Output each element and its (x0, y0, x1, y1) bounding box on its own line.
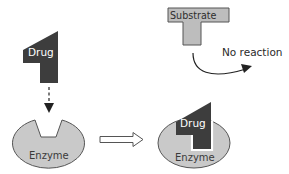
right-drug-label: Drug (180, 117, 206, 129)
left-enzyme-label: Enzyme (29, 150, 69, 161)
no-reaction-label: No reaction (222, 46, 282, 58)
left-drug-label: Drug (28, 46, 54, 58)
drug-enzyme-diagram: Drug Enzyme Substrate No reaction Enzyme… (0, 0, 289, 174)
arrowhead-down-icon (44, 103, 54, 113)
arrowhead-icon (241, 64, 252, 73)
substrate-label: Substrate (170, 10, 217, 21)
right-enzyme-label: Enzyme (175, 152, 215, 163)
dashed-binding-arrow (44, 87, 54, 113)
substrate: Substrate (168, 8, 229, 45)
left-enzyme: Enzyme (12, 120, 84, 168)
hollow-right-arrow-icon (100, 133, 143, 147)
left-drug: Drug (23, 31, 58, 83)
